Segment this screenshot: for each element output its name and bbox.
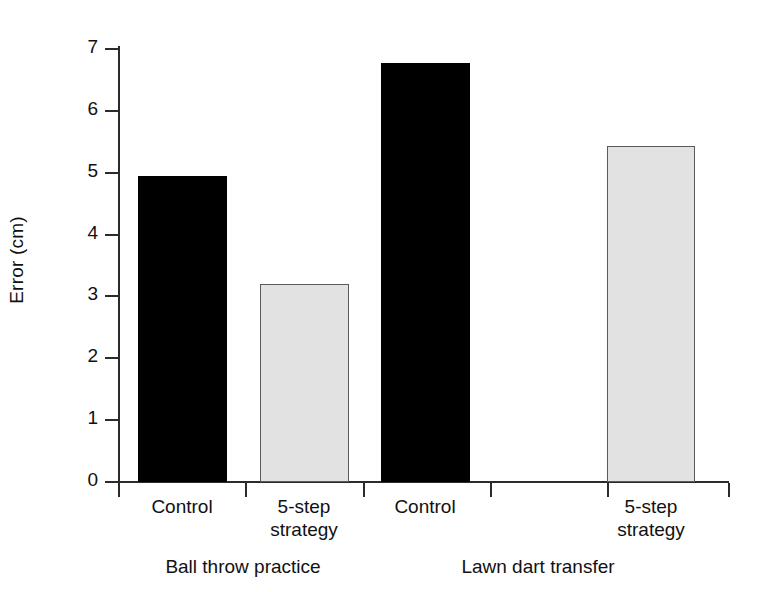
y-axis-tick-label: 7 — [38, 36, 98, 58]
x-axis-category-label: 5-stepstrategy — [576, 495, 726, 541]
category-label-line2: strategy — [229, 518, 379, 541]
bar — [381, 63, 470, 482]
x-axis-tick — [728, 483, 730, 497]
bar — [260, 284, 349, 482]
category-label-line1: 5-step — [576, 495, 726, 518]
y-axis-tick — [105, 419, 118, 421]
y-axis-tick — [105, 48, 118, 50]
y-axis-tick-label: 1 — [38, 407, 98, 429]
y-axis-tick-label: 3 — [38, 283, 98, 305]
x-axis-tick — [607, 483, 609, 497]
x-axis-group-label: Lawn dart transfer — [388, 556, 688, 578]
y-axis-line — [118, 46, 120, 485]
y-axis-tick — [105, 357, 118, 359]
y-axis-tick — [105, 481, 118, 483]
y-axis-tick-label: 5 — [38, 160, 98, 182]
y-axis-tick — [105, 172, 118, 174]
y-axis-tick-label: 6 — [38, 98, 98, 120]
x-axis-tick — [363, 483, 365, 497]
y-axis-tick-label: 4 — [38, 222, 98, 244]
x-axis-tick — [245, 483, 247, 497]
x-axis-tick — [118, 483, 120, 497]
y-axis-tick — [105, 234, 118, 236]
category-label-line2: strategy — [576, 518, 726, 541]
y-axis-tick — [105, 295, 118, 297]
bar — [138, 176, 227, 482]
y-axis-title: Error (cm) — [6, 180, 28, 340]
x-axis-group-label: Ball throw practice — [93, 556, 393, 578]
category-label-line1: Control — [350, 495, 500, 518]
y-axis-tick-label: 0 — [38, 469, 98, 491]
bar-chart-figure: Error (cm) 76543210 Control5-stepstrateg… — [0, 0, 767, 592]
x-axis-tick — [490, 483, 492, 497]
y-axis-tick-label: 2 — [38, 345, 98, 367]
x-axis-category-label: Control — [350, 495, 500, 518]
bar — [607, 146, 695, 482]
y-axis-tick — [105, 110, 118, 112]
